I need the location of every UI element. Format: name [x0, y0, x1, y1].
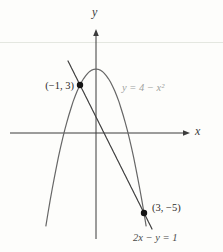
parabola-equation-label: y = 4 − x²: [122, 82, 164, 94]
intersection-point-dot-2: [141, 210, 147, 216]
point-label-neg1-3: (−1, 3): [28, 80, 74, 92]
x-axis-arrow-icon: [183, 130, 190, 136]
line-equation-label: 2x − y = 1: [133, 232, 178, 244]
textbook-figure: y x (−1, 3) y = 4 − x² (3, −5) 2x − y = …: [0, 0, 223, 252]
y-axis-arrow-icon: [93, 29, 99, 36]
y-axis-label: y: [92, 6, 97, 18]
x-axis-label: x: [195, 125, 200, 137]
plot-canvas: [0, 0, 223, 252]
point-label-3-neg5: (3, −5): [152, 202, 181, 214]
intersection-point-dot-1: [77, 82, 83, 88]
